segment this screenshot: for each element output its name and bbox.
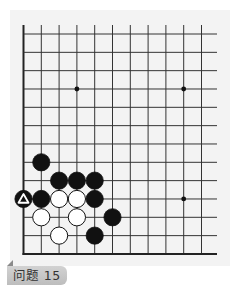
black-stone-disc bbox=[33, 154, 50, 171]
black-stone-disc bbox=[86, 190, 103, 207]
go-board[interactable] bbox=[0, 0, 239, 288]
black-stone[interactable] bbox=[51, 172, 68, 189]
white-stone[interactable] bbox=[51, 227, 68, 244]
black-stone-disc bbox=[68, 172, 85, 189]
white-stone[interactable] bbox=[68, 190, 85, 207]
white-stone-disc bbox=[51, 227, 68, 244]
white-stone[interactable] bbox=[68, 209, 85, 226]
black-stone[interactable] bbox=[104, 209, 121, 226]
black-stone-triangle-marked[interactable] bbox=[15, 190, 32, 207]
black-stone-disc bbox=[104, 209, 121, 226]
white-stone-disc bbox=[68, 190, 85, 207]
star-point bbox=[181, 87, 186, 92]
black-stone[interactable] bbox=[86, 227, 103, 244]
black-stone[interactable] bbox=[68, 172, 85, 189]
black-stone[interactable] bbox=[86, 190, 103, 207]
black-stone-disc bbox=[86, 227, 103, 244]
puzzle-label: 问题 15 bbox=[7, 266, 67, 285]
black-stone-disc bbox=[15, 190, 32, 207]
white-stone-disc bbox=[68, 209, 85, 226]
white-stone[interactable] bbox=[51, 190, 68, 207]
white-stone[interactable] bbox=[33, 209, 50, 226]
puzzle-label-text: 问题 15 bbox=[13, 268, 60, 283]
black-stone-disc bbox=[33, 190, 50, 207]
black-stone[interactable] bbox=[33, 154, 50, 171]
white-stone-disc bbox=[33, 209, 50, 226]
black-stone-disc bbox=[86, 172, 103, 189]
white-stone-disc bbox=[51, 190, 68, 207]
black-stone[interactable] bbox=[86, 172, 103, 189]
black-stone-disc bbox=[51, 172, 68, 189]
star-point bbox=[75, 87, 80, 92]
star-point bbox=[181, 197, 186, 202]
black-stone[interactable] bbox=[33, 190, 50, 207]
